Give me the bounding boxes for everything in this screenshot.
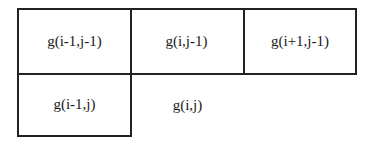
cell-label: g(i-1,j-1) xyxy=(47,33,102,50)
cell-label: g(i,j) xyxy=(173,97,203,114)
cell-label: g(i+1,j-1) xyxy=(271,33,329,50)
cell-label: g(i-1,j) xyxy=(53,96,95,113)
cell-g-i-plus-1-j-minus-1: g(i+1,j-1) xyxy=(243,8,357,75)
cell-g-i-minus-1-j: g(i-1,j) xyxy=(17,73,132,137)
cell-g-i-minus-1-j-minus-1: g(i-1,j-1) xyxy=(17,8,132,75)
cell-g-i-j-current: g(i,j) xyxy=(130,73,245,137)
cell-label: g(i,j-1) xyxy=(165,33,207,50)
cell-g-i-j-minus-1: g(i,j-1) xyxy=(130,8,245,75)
